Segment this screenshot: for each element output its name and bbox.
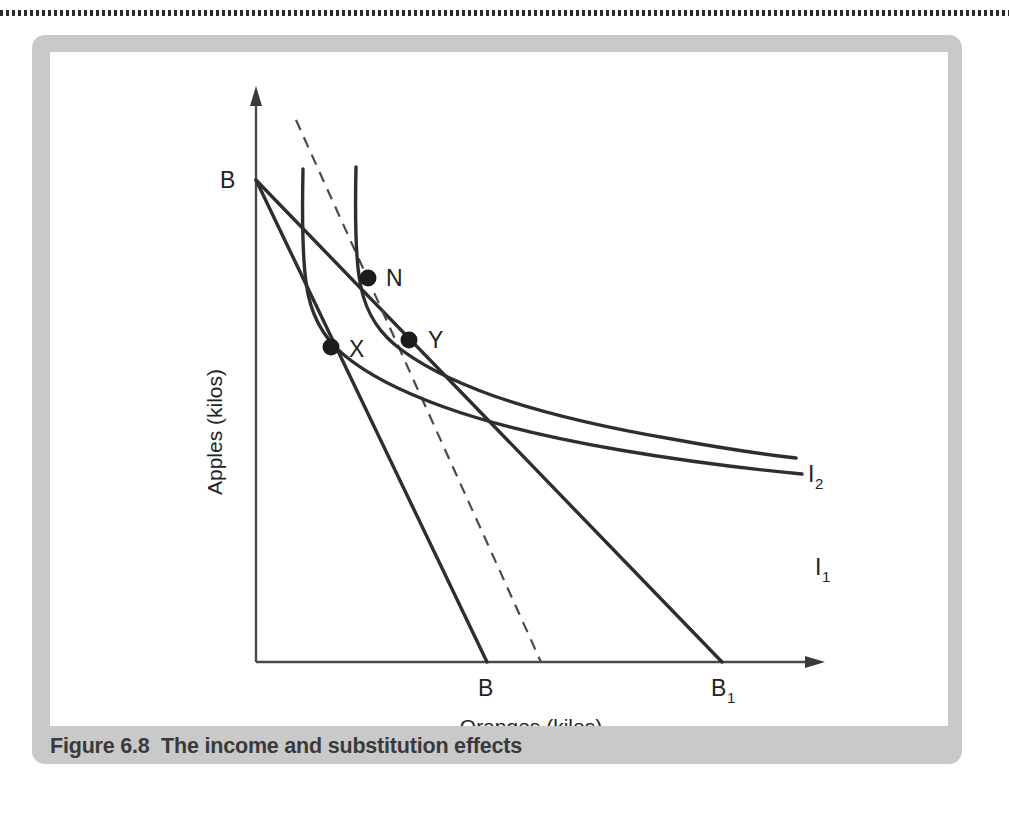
point-marker-n[interactable] [360,270,377,287]
compensated-budget-line-dashed[interactable] [296,120,541,662]
x-axis-intercept-label-b1: B 1 [711,675,735,706]
x-axis-title: Oranges (kilos) [460,715,602,726]
indifference-curves-group [302,167,802,474]
indifference-curve-i2[interactable] [355,167,796,458]
budget-line-b[interactable] [256,180,487,662]
point-marker-x[interactable] [323,339,340,356]
indifference-curve-i1[interactable] [302,169,802,474]
y-axis-intercept-label-b: B [220,167,235,193]
figure-panel: X N Y I 2 I 1 B B B 1 [32,35,962,764]
y-axis-arrowhead [250,86,262,106]
figure-caption: Figure 6.8 The income and substitution e… [50,729,950,763]
x-axis-intercept-label-b1-subscript: 1 [727,689,735,706]
curve-label-i1-subscript: 1 [822,568,830,585]
curve-label-i2-subscript: 2 [815,475,823,492]
page-top-dotted-rule [0,8,1009,16]
figure-page: X N Y I 2 I 1 B B B 1 [0,0,1009,826]
point-label-y: Y [428,327,443,353]
curve-label-i2-main: I [808,461,814,487]
x-axis-arrowhead [805,656,825,668]
curve-label-i1: I 1 [815,554,830,585]
axes-group [250,86,825,668]
plot-card: X N Y I 2 I 1 B B B 1 [50,52,948,726]
x-axis-intercept-label-b: B [478,675,493,701]
x-axis-intercept-label-b1-main: B [711,675,726,701]
point-label-n: N [386,265,403,291]
curve-label-i1-main: I [815,554,821,580]
curve-label-i2: I 2 [808,461,823,492]
budget-lines-group [256,120,722,662]
indifference-curve-chart: X N Y I 2 I 1 B B B 1 [50,52,948,726]
point-marker-y[interactable] [401,332,418,349]
point-label-x: X [349,336,364,362]
y-axis-title: Apples (kilos) [203,369,226,495]
